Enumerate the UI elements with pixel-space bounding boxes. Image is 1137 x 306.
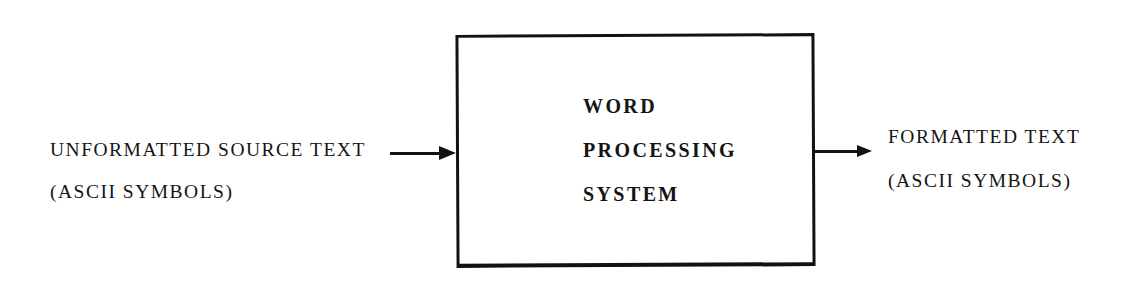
output-arrow-shaft xyxy=(815,150,859,153)
output-label-line-1: FORMATTED TEXT xyxy=(888,115,1080,159)
process-label-line-2: PROCESSING xyxy=(583,128,813,172)
process-label-line-1: WORD xyxy=(583,84,813,128)
output-flow-label: FORMATTED TEXT (ASCII SYMBOLS) xyxy=(888,115,1080,203)
input-arrow-shaft xyxy=(390,152,440,155)
input-arrow-head xyxy=(439,146,456,160)
process-label-line-3: SYSTEM xyxy=(583,172,813,216)
output-label-line-2: (ASCII SYMBOLS) xyxy=(888,159,1080,203)
diagram-canvas: WORD PROCESSING SYSTEM UNFORMATTED SOURC… xyxy=(0,0,1137,306)
process-box-label: WORD PROCESSING SYSTEM xyxy=(583,84,813,216)
output-arrow-head xyxy=(857,145,872,157)
input-label-line-2: (ASCII SYMBOLS) xyxy=(50,171,366,213)
input-label-line-1: UNFORMATTED SOURCE TEXT xyxy=(50,129,366,171)
input-flow-label: UNFORMATTED SOURCE TEXT (ASCII SYMBOLS) xyxy=(50,129,366,213)
